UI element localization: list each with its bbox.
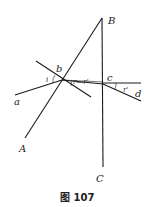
prism-face-ba (25, 18, 102, 138)
figure-caption: 图 107 (60, 192, 94, 203)
label-b: b (56, 63, 62, 74)
label-a: a (14, 96, 20, 107)
prism-face-bc (102, 18, 103, 167)
incident-ray (15, 80, 62, 95)
label-rprime: r' (123, 86, 128, 94)
label-A: A (18, 143, 26, 154)
label-i: i (46, 76, 48, 84)
prism-refraction-diagram: B A C a b c d i r—r' r' 图 107 (0, 0, 150, 207)
label-d: d (135, 88, 141, 99)
label-B: B (107, 15, 115, 26)
label-r-rprime: r—r' (73, 78, 89, 86)
angle-arc-r (71, 81, 72, 86)
label-c: c (107, 72, 113, 83)
label-C: C (96, 173, 104, 184)
angle-arc-rprime (115, 83, 116, 89)
